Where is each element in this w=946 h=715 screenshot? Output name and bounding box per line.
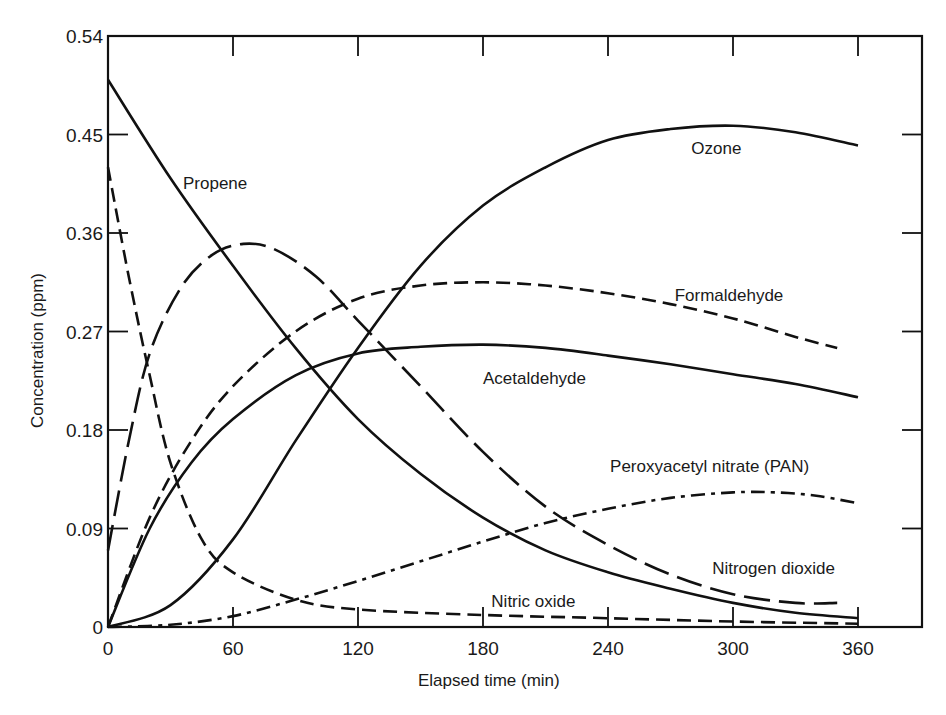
y-axis-title: Concentration (ppm): [28, 273, 47, 428]
y-axis-tick-labels: 00.090.180.270.360.450.54: [66, 26, 103, 638]
plot-frame: [108, 36, 922, 627]
axis-ticks: [108, 36, 922, 627]
y-tick-label: 0: [92, 617, 103, 638]
x-tick-label: 240: [592, 638, 624, 659]
series-propene-label: Propene: [183, 174, 247, 193]
y-tick-label: 0.18: [66, 420, 103, 441]
y-tick-label: 0.54: [66, 26, 103, 47]
series-propene-line: [108, 80, 858, 618]
x-tick-label: 360: [842, 638, 874, 659]
y-tick-label: 0.27: [66, 322, 103, 343]
x-axis-tick-labels: 060120180240300360: [103, 638, 874, 659]
series-nitrogen-dioxide-label: Nitrogen dioxide: [712, 559, 835, 578]
x-tick-label: 60: [222, 638, 243, 659]
x-tick-label: 300: [717, 638, 749, 659]
series-formaldehyde-label: Formaldehyde: [675, 286, 784, 305]
series-acetaldehyde-label: Acetaldehyde: [483, 369, 586, 388]
y-tick-label: 0.45: [66, 125, 103, 146]
series-ozone-label: Ozone: [691, 139, 741, 158]
series-peroxyacetyl-nitrate-pan-label: Peroxyacetyl nitrate (PAN): [610, 457, 809, 476]
series-nitric-oxide-label: Nitric oxide: [491, 592, 575, 611]
data-series: [108, 80, 858, 627]
y-tick-label: 0.09: [66, 519, 103, 540]
x-tick-label: 0: [103, 638, 114, 659]
y-tick-label: 0.36: [66, 223, 103, 244]
x-tick-label: 180: [467, 638, 499, 659]
x-axis-title: Elapsed time (min): [418, 671, 560, 690]
line-chart: 00.090.180.270.360.450.54 06012018024030…: [0, 0, 946, 715]
x-tick-label: 120: [342, 638, 374, 659]
